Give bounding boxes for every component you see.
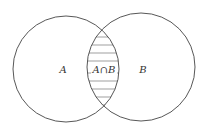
set-b-label: B: [138, 64, 146, 75]
intersection-label: A∩B: [92, 64, 116, 75]
set-a-label: A: [58, 64, 66, 75]
venn-diagram: A A∩B B: [0, 0, 202, 127]
